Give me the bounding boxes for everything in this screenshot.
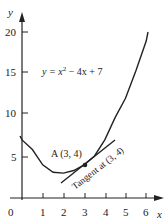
graph: y x 0 1 2 3 4 5 6 5 10 15 20 y = x2 − 4x… xyxy=(0,0,167,222)
equation-label: y = x2 − 4x + 7 xyxy=(41,65,102,77)
parabola-curve xyxy=(20,32,148,173)
x-axis-label: x xyxy=(156,208,162,220)
y-ticks xyxy=(22,32,28,157)
x-tick-5: 5 xyxy=(123,206,129,218)
point-a-marker xyxy=(83,163,88,168)
x-tick-4: 4 xyxy=(103,206,109,218)
y-axis-label: y xyxy=(7,6,13,18)
y-tick-10: 10 xyxy=(5,107,17,119)
x-tick-3: 3 xyxy=(82,206,88,218)
y-tick-15: 15 xyxy=(5,66,17,78)
x-tick-6: 6 xyxy=(143,206,149,218)
y-tick-20: 20 xyxy=(5,26,17,38)
x-ticks xyxy=(43,193,146,198)
x-tick-2: 2 xyxy=(61,206,67,218)
point-a-label: A (3, 4) xyxy=(51,148,82,160)
origin-label: 0 xyxy=(8,206,14,218)
y-axis-arrow-icon xyxy=(19,12,25,22)
x-tick-1: 1 xyxy=(40,206,46,218)
y-tick-5: 5 xyxy=(11,151,17,163)
x-axis-arrow-icon xyxy=(154,195,164,201)
